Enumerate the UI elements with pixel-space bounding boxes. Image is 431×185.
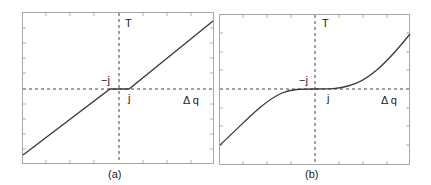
ticks-a [23, 13, 213, 163]
panel-b: T −j j Δ q (b) [220, 15, 411, 181]
panel-a: T −j j Δ q (a) [23, 13, 214, 181]
pos-j-label-a: j [127, 92, 130, 104]
curve-b [220, 34, 410, 145]
caption-a: (a) [108, 168, 121, 180]
pos-j-label-b: j [326, 92, 329, 104]
neg-j-label-b: −j [299, 74, 308, 86]
x-label-b: Δ q [381, 94, 397, 106]
y-label-b: T [322, 17, 329, 29]
caption-b: (b) [305, 168, 318, 180]
y-label-a: T [125, 17, 132, 29]
plot-frame-a [23, 13, 214, 164]
neg-j-label-a: −j [101, 74, 110, 86]
figure: T −j j Δ q (a) [0, 0, 431, 185]
curve-a [23, 21, 213, 155]
x-label-a: Δ q [183, 94, 199, 106]
